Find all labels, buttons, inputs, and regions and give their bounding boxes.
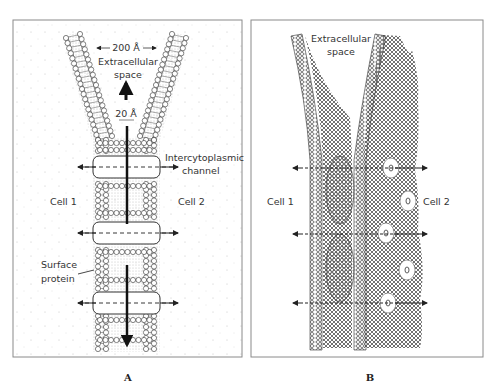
label-extracellular-b: Extracellular [311,33,371,44]
vesicle [399,260,415,280]
panel-b-caption: B [366,372,374,383]
label-cell2-a: Cell 2 [178,196,205,207]
label-200A: 200 Å [112,42,140,53]
vesicle [400,191,416,211]
label-20A: 20 Å [115,108,137,119]
label-cell1-b: Cell 1 [267,196,294,207]
panel-b: Extracellular space Cell 1 Cell 2 B [251,20,483,383]
panel-a-caption: A [123,372,132,383]
label-surface: Surface [41,259,77,270]
label-space-b: space [327,46,355,57]
label-space-a: space [114,69,142,80]
gap-junction-figure: 200 Å Extracellular space 20 Å Intercyto… [0,0,493,389]
label-extracellular-a: Extracellular [98,56,158,67]
connexon-array-1 [326,156,354,224]
label-cell1-a: Cell 1 [50,196,77,207]
label-cell2-b: Cell 2 [423,196,450,207]
vesicle [378,223,394,243]
panel-a: 200 Å Extracellular space 20 Å Intercyto… [13,20,244,383]
label-protein: protein [41,273,75,284]
label-channel-line2: channel [182,165,220,176]
connexon-array-2 [326,234,354,302]
label-channel-line1: Intercytoplasmic [165,152,244,163]
